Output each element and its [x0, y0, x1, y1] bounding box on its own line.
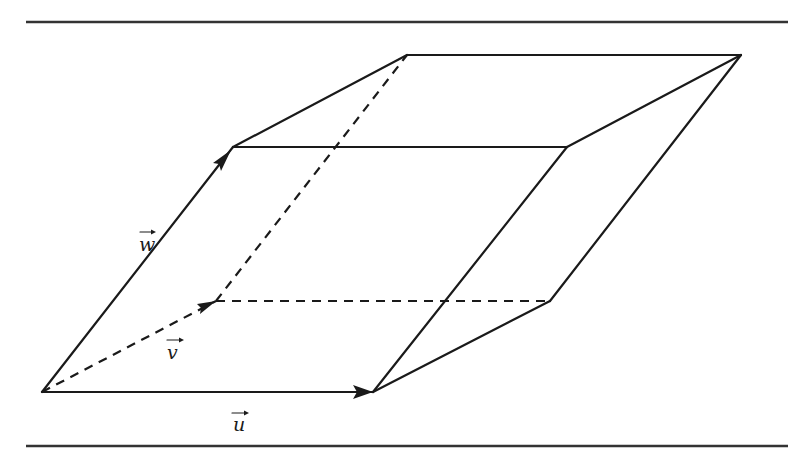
edge-u-to-u-plus-v — [373, 301, 550, 392]
label-w-text: w — [139, 233, 155, 255]
edge-u-plus-w-to-top — [567, 55, 741, 147]
label-u-text: u — [233, 413, 245, 435]
parallelepiped-diagram: w v u — [0, 0, 788, 469]
label-w: w — [139, 230, 156, 256]
edge-u-to-u-plus-w — [373, 147, 567, 392]
vector-v-line — [42, 301, 216, 392]
label-v-text: v — [167, 341, 178, 363]
edge-u-plus-v-to-top — [550, 55, 741, 301]
label-u: u — [232, 411, 249, 436]
hidden-edge-v-to-v-plus-w — [216, 55, 407, 301]
arrowhead-v-icon — [197, 301, 216, 314]
edge-w-to-v-plus-w — [233, 55, 407, 147]
label-v: v — [167, 338, 184, 364]
vector-w-line — [42, 147, 233, 392]
